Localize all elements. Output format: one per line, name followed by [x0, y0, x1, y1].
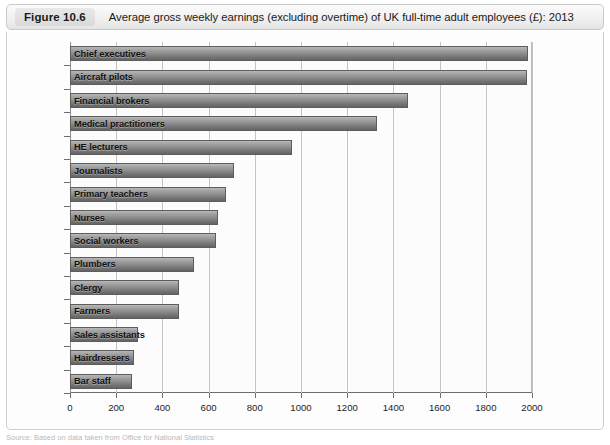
bar[interactable]	[70, 187, 226, 202]
x-tick-label: 600	[201, 402, 217, 413]
bar[interactable]	[70, 350, 134, 365]
bar[interactable]	[70, 280, 179, 295]
bar-row[interactable]: Social workers	[70, 233, 532, 248]
bar-row[interactable]: Chief executives	[70, 46, 532, 61]
bar[interactable]	[70, 210, 218, 225]
bar[interactable]	[70, 140, 292, 155]
x-tick-1600	[440, 393, 441, 398]
x-tick-label: 800	[247, 402, 263, 413]
x-tick-label: 400	[154, 402, 170, 413]
x-tick-label: 200	[108, 402, 124, 413]
figure-caption-bar: Figure 10.6 Average gross weekly earning…	[6, 4, 604, 30]
bar-row[interactable]: Bar staff	[70, 374, 532, 389]
bar[interactable]	[70, 163, 234, 178]
bar-row[interactable]: Sales assistants	[70, 327, 532, 342]
bar[interactable]	[70, 93, 408, 108]
x-tick-0	[70, 393, 71, 398]
x-tick-1400	[393, 393, 394, 398]
bar[interactable]	[70, 70, 527, 85]
bar-series: Chief executivesAircraft pilotsFinancial…	[70, 42, 532, 393]
bar-row[interactable]: HE lecturers	[70, 140, 532, 155]
bar-row[interactable]: Clergy	[70, 280, 532, 295]
source-note: Source: Based on data taken from Office …	[6, 433, 604, 443]
bar[interactable]	[70, 374, 132, 389]
bar-row[interactable]: Primary teachers	[70, 187, 532, 202]
bar[interactable]	[70, 233, 216, 248]
x-tick-label: 1800	[475, 402, 496, 413]
x-tick-label: 1600	[429, 402, 450, 413]
figure-title: Average gross weekly earnings (excluding…	[109, 11, 574, 23]
x-tick-2000	[532, 393, 533, 398]
plot-area: Chief executivesAircraft pilotsFinancial…	[70, 42, 532, 415]
x-tick-400	[162, 393, 163, 398]
bar[interactable]	[70, 46, 528, 61]
bar[interactable]	[70, 116, 377, 131]
gridline-2000	[532, 42, 533, 393]
bar-row[interactable]: Nurses	[70, 210, 532, 225]
x-tick-1000	[301, 393, 302, 398]
bar-row[interactable]: Plumbers	[70, 257, 532, 272]
bar-row[interactable]: Financial brokers	[70, 93, 532, 108]
bar[interactable]	[70, 304, 179, 319]
x-tick-800	[255, 393, 256, 398]
bar-row[interactable]: Hairdressers	[70, 350, 532, 365]
figure-number-tag: Figure 10.6	[15, 8, 95, 26]
bar-row[interactable]: Farmers	[70, 304, 532, 319]
x-tick-label: 0	[67, 402, 72, 413]
bar-row[interactable]: Medical practitioners	[70, 116, 532, 131]
bar[interactable]	[70, 327, 138, 342]
x-tick-label: 1000	[290, 402, 311, 413]
x-tick-1800	[486, 393, 487, 398]
x-tick-label: 1200	[337, 402, 358, 413]
bar-row[interactable]: Aircraft pilots	[70, 70, 532, 85]
x-tick-200	[116, 393, 117, 398]
x-tick-1200	[347, 393, 348, 398]
bar-row[interactable]: Journalists	[70, 163, 532, 178]
x-tick-label: 2000	[521, 402, 542, 413]
bar[interactable]	[70, 257, 194, 272]
x-tick-600	[209, 393, 210, 398]
chart-frame: Chief executivesAircraft pilotsFinancial…	[6, 32, 604, 430]
x-tick-label: 1400	[383, 402, 404, 413]
